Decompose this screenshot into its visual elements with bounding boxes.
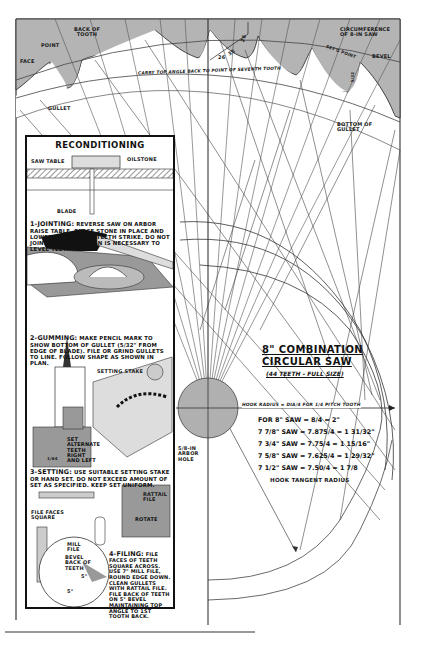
dim-26-left: 26 <box>218 55 225 60</box>
step-jointing: 1-JOINTING: REVERSE SAW ON ARBOR RAISE T… <box>30 221 172 252</box>
formula-7-5-8: 7 5/8" SAW = 7.625/4 = 1 29/32" <box>258 452 375 460</box>
label-oilstone: OILSTONE <box>127 157 157 162</box>
label-back-of-tooth: BACK OF TOOTH <box>67 27 107 38</box>
step-gumming: 2-GUMMING: MAKE PENCIL MARK TO SHOW BOTT… <box>30 335 172 366</box>
title-line-1: 8" COMBINATION <box>262 344 363 356</box>
label-bottom-of-gullet: BOTTOM OF GULLET <box>337 122 377 133</box>
label-mill-file: MILL FILE <box>67 542 89 553</box>
formula-8: FOR 8" SAW = 8/4 = 2" <box>258 416 340 424</box>
label-set-amount: 1/64 <box>47 457 58 461</box>
label-saw-table: SAW TABLE <box>31 159 65 164</box>
label-bevel-back: BEVEL BACK OF TEETH <box>65 555 97 571</box>
label-circumference: CIRCUMFERENCE OF 8-IN SAW <box>340 27 400 38</box>
step-setting-head: 3-SETTING: <box>30 468 72 476</box>
step-filing-body: FILE FACES OF TEETH SQUARE ACROSS. USE 7… <box>109 551 170 619</box>
label-setting-stake: SETTING STAKE <box>97 369 143 374</box>
diagram-title: 8" COMBINATION CIRCULAR SAW (44 TEETH - … <box>262 344 363 377</box>
label-bevel-degree: 5° <box>81 574 87 579</box>
label-face: FACE <box>20 59 35 64</box>
label-bevel: BEVEL <box>372 54 391 59</box>
formula-7-7-8: 7 7/8" SAW = 7.875/4 = 1 31/32" <box>258 428 375 436</box>
label-blade: BLADE <box>57 209 76 214</box>
dim-5-32: 5/32 <box>351 72 355 83</box>
step-filing: 4-FILING: FILE FACES OF TEETH SQUARE ACR… <box>109 551 171 620</box>
label-rattail-file: RATTAIL FILE <box>143 492 169 503</box>
label-file-faces-square: FILE FACES SQUARE <box>31 510 71 521</box>
step-setting: 3-SETTING: USE SUITABLE SETTING STAKE OR… <box>30 469 172 488</box>
reconditioning-panel: RECONDITIONING SAW TABLE OILSTONE BLADE <box>25 135 175 609</box>
label-set-alternate: SET ALTERNATE TEETH RIGHT AND LEFT <box>67 437 97 463</box>
step-gumming-head: 2-GUMMING: <box>30 334 77 342</box>
formula-7-1-2: 7 1/2" SAW = 7.50/4 = 1 7/8 <box>258 464 358 472</box>
hook-radius-label: HOOK RADIUS = DIA/4 FOR 1/4 PITCH TOOTH <box>242 403 361 408</box>
title-subtitle: (44 TEETH - FULL SIZE) <box>266 370 363 377</box>
label-bevel-degree-2: 5° <box>67 589 73 594</box>
title-line-2: CIRCULAR SAW <box>262 356 363 368</box>
step-jointing-head: 1-JOINTING: <box>30 220 74 228</box>
arbor-hole-label: 5/8-IN ARBOR HOLE <box>178 446 208 462</box>
formula-7-3-4: 7 3/4" SAW = 7.75/4 = 1 15/16" <box>258 440 370 448</box>
label-gullet: GULLET <box>48 106 71 111</box>
label-point: POINT <box>41 43 59 48</box>
hook-tangent-label: HOOK TANGENT RADIUS <box>270 478 349 484</box>
label-rotate: ROTATE <box>135 517 158 522</box>
